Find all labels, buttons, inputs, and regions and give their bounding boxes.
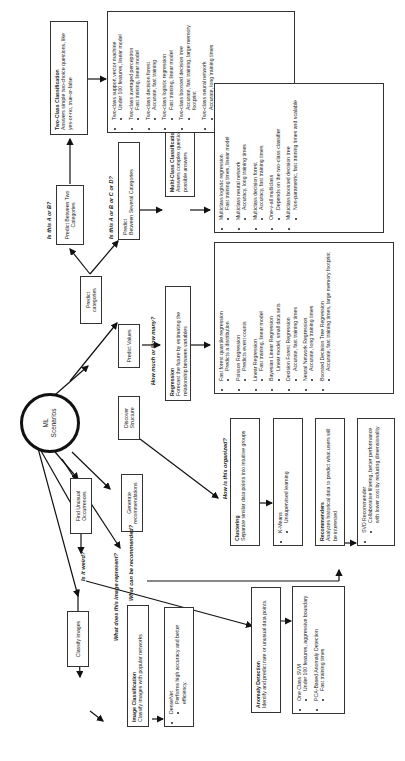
image-classification-box: Image ClassificationClassify images with… — [127, 605, 149, 727]
question-recommend: What can be recommended? — [128, 525, 134, 601]
anomaly-detection-box: Anomaly DetectionIdentify and predict ra… — [251, 587, 281, 713]
discover-structure-node: Discover Structure — [118, 396, 140, 440]
anomaly-algorithms-list: One Class SVMUnder 100 features, aggress… — [292, 586, 345, 714]
algorithm-item: Multiclass neural networkAccuracy, long … — [235, 88, 248, 220]
algorithm-item: PCA-Based Anomaly DetectionFast training… — [313, 591, 326, 701]
algorithm-item: Neural Network RegressionAccurate, long … — [302, 247, 315, 381]
algorithm-item: Multiclass boosted decision treeNon-para… — [285, 88, 298, 220]
algorithm-item: Two-class decision forestAccurate, fast … — [145, 16, 158, 120]
predict-categories-node: Predict categories — [80, 276, 102, 324]
two-class-classification-box: Two-Class ClassificationAnswers simple t… — [50, 21, 88, 135]
algorithm-item: Two-class neural networkAccurate, long t… — [201, 16, 214, 120]
algorithm-item: Two-class logistic regressionFast traini… — [161, 16, 174, 120]
ml-cheat-sheet-diagram: MLScenarios Predict categories Predict V… — [0, 0, 405, 761]
algorithm-item: One-v-all multiclassDepends on the two-c… — [268, 88, 281, 220]
question-clustering: How is this organized? — [222, 438, 228, 499]
algorithm-item: Two-class averaged perceptronFast traini… — [128, 16, 141, 120]
predict-several-categories-node: PredictBetween Several Categories — [118, 142, 140, 240]
recommenders-box: RecommendersAnalyzes historical data to … — [315, 418, 345, 546]
predict-values-node: Predict Values — [118, 324, 140, 368]
multi-class-algorithms-list: Multiclass logistic regressionFast train… — [214, 83, 384, 233]
generate-recommendations-node: Generate recommendations — [121, 474, 143, 532]
regression-box: RegressionForecast the future by estimat… — [165, 286, 191, 401]
ml-scenarios-node: MLScenarios — [20, 393, 80, 453]
algorithm-item: Two-class boosted decision treeAccurate,… — [178, 16, 197, 120]
algorithm-item: One Class SVMUnder 100 features, aggress… — [296, 591, 309, 701]
question-anomaly: Is it weird? — [80, 552, 86, 581]
regression-algorithms-list: Fast forest quantile regressionPredicts … — [214, 242, 394, 394]
algorithm-item: Boosted Decision Tree RegressionAccurate… — [319, 247, 332, 381]
algorithm-item: Fast forest quantile regressionPredicts … — [218, 247, 231, 381]
algorithm-item: Poisson RegressionPredicts event counts — [235, 247, 248, 381]
question-regression: How much or How many? — [150, 317, 156, 385]
algorithm-item: Multiclass logistic regressionFast train… — [218, 88, 231, 220]
algorithm-item: Decision Forest RegressionAccurate, fast… — [285, 247, 298, 381]
algorithm-item: Two-class support vector machineUnder 10… — [111, 16, 124, 120]
image-algorithms-list: DenseNetPerforms high accuracy and bette… — [164, 607, 194, 727]
classify-images-node: Classify images — [67, 611, 89, 667]
algorithm-item: DenseNetPerforms high accuracy and bette… — [168, 612, 187, 714]
clustering-box: ClusteringSeparate similar data points i… — [230, 418, 260, 546]
algorithm-item: SVD RecommenderCollaborative filtering, … — [361, 423, 380, 533]
find-unusual-node: Find Unusual Occurrences — [70, 478, 92, 534]
algorithm-item: Linear RegressionFast training, linear m… — [252, 247, 265, 381]
question-multi-class: Is this A or B or C or D? — [108, 176, 114, 239]
algorithm-item: Multiclass decision forestAccuracy, fast… — [252, 88, 265, 220]
clustering-algorithms-list: K-MeansUnsupervised learning — [273, 418, 303, 546]
question-two-class: Is this A or B? — [46, 201, 52, 239]
predict-two-categories-node: Predict Between Two Categories — [56, 185, 84, 245]
algorithm-item: K-MeansUnsupervised learning — [277, 423, 290, 533]
question-image: What does this image represent? — [113, 553, 119, 641]
recommenders-algorithms-list: SVD RecommenderCollaborative filtering, … — [357, 418, 395, 546]
algorithm-item: Bayesian Linear RegressionLinear model, … — [268, 247, 281, 381]
